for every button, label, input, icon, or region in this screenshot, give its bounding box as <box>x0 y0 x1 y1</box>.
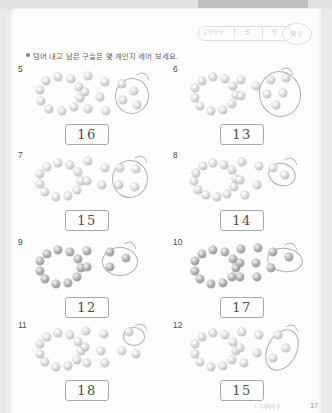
marble-ring <box>36 86 44 94</box>
marble-loose <box>81 343 89 351</box>
marble-removed <box>281 171 289 179</box>
marble-ring <box>228 100 236 108</box>
answer-box[interactable]: 17 <box>220 297 264 318</box>
marble-removed <box>130 87 138 95</box>
marble-ring <box>213 193 221 201</box>
marble-loose <box>236 344 244 352</box>
answer-value: 15 <box>66 211 108 230</box>
marble-loose <box>236 176 244 184</box>
answer-value: 17 <box>221 298 263 317</box>
marble-ring <box>191 350 199 358</box>
problem-item: 516 <box>18 64 173 148</box>
marble-stage <box>185 152 328 210</box>
marble-stage <box>185 66 328 124</box>
marble-loose <box>237 245 245 253</box>
marble-loose <box>83 359 91 367</box>
marble-loose <box>237 76 245 84</box>
marble-removed <box>122 254 130 262</box>
answer-box[interactable]: 18 <box>65 380 109 401</box>
date-divider-1 <box>234 27 235 38</box>
answer-box[interactable]: 15 <box>65 210 109 231</box>
marble-ring <box>191 257 199 265</box>
problem-item: 912 <box>18 237 173 321</box>
problem-number: 9 <box>18 237 23 247</box>
marble-loose <box>241 191 249 199</box>
problem-number: 12 <box>173 320 182 330</box>
marble-loose <box>253 273 261 281</box>
marble-loose <box>132 350 140 358</box>
answer-value: 15 <box>221 381 263 400</box>
marble-ring <box>70 103 78 111</box>
marble-removed <box>263 90 271 98</box>
marble-removed <box>125 328 133 336</box>
marble-ring <box>42 77 50 85</box>
marble-ring <box>228 273 236 281</box>
marble-ring <box>36 170 44 178</box>
marble-ring <box>207 363 215 371</box>
marble-ring <box>45 105 53 113</box>
answer-value: 18 <box>66 381 108 400</box>
problem-number: 10 <box>173 237 182 247</box>
marble-ring <box>202 191 210 199</box>
marble-loose <box>240 359 248 367</box>
problem-item: 613 <box>173 64 328 148</box>
page-top-tab: • • • • <box>198 0 308 9</box>
marble-loose <box>255 162 263 170</box>
marble-loose <box>83 247 91 255</box>
problem-number: 8 <box>173 150 178 160</box>
answer-box[interactable]: 14 <box>220 210 264 231</box>
problem-number: 6 <box>173 64 178 74</box>
marble-stage <box>30 66 173 124</box>
marble-ring <box>36 267 44 275</box>
marble-ring <box>64 192 72 200</box>
marble-stage <box>185 239 328 297</box>
date-label: 공부한 날 <box>203 26 224 39</box>
marble-loose <box>253 349 261 357</box>
marble-loose <box>83 177 91 185</box>
marble-ring <box>54 159 62 167</box>
marble-ring <box>207 107 215 115</box>
marble-ring <box>198 333 206 341</box>
marble-ring <box>196 358 204 366</box>
answer-value: 14 <box>221 211 263 230</box>
marble-removed <box>269 248 277 256</box>
marble-stage <box>185 322 328 380</box>
answer-box[interactable]: 16 <box>65 124 109 145</box>
marble-ring <box>190 177 198 185</box>
marble-ring <box>221 75 229 83</box>
marble-loose <box>237 92 245 100</box>
marble-ring <box>199 162 207 170</box>
marble-loose <box>82 327 90 335</box>
marble-ring <box>194 186 202 194</box>
answer-box[interactable]: 15 <box>220 380 264 401</box>
problem-item: 1215 <box>173 320 328 404</box>
page-footer: 1. 리개까지 수 17 <box>254 401 320 411</box>
marble-loose <box>96 93 104 101</box>
marble-loose <box>84 105 92 113</box>
marble-ring <box>36 257 44 265</box>
problem-item: 1017 <box>173 237 328 321</box>
marble-ring <box>221 248 229 256</box>
marble-ring <box>36 350 44 358</box>
scanned-worksheet-page: • • • • 공부한 날 월 일 확인 · · · 덬어 내고 남은 구슬은 … <box>0 0 332 413</box>
marble-ring <box>41 358 49 366</box>
marble-ring <box>52 193 60 201</box>
bullet-icon <box>26 53 30 57</box>
problem-item: 814 <box>173 150 328 234</box>
marble-ring <box>36 180 44 188</box>
marble-removed <box>282 344 290 352</box>
answer-value: 13 <box>221 125 263 144</box>
marble-ring <box>230 183 238 191</box>
answer-box[interactable]: 13 <box>220 124 264 145</box>
marble-ring <box>223 190 231 198</box>
marble-ring <box>54 329 62 337</box>
marble-ring <box>36 340 44 348</box>
marble-ring <box>192 169 200 177</box>
marble-ring <box>209 73 217 81</box>
marble-loose <box>84 157 92 165</box>
marble-removed <box>133 101 141 109</box>
marble-loose <box>97 347 105 355</box>
marble-ring <box>43 163 51 171</box>
marble-loose <box>252 259 260 267</box>
answer-box[interactable]: 12 <box>65 297 109 318</box>
